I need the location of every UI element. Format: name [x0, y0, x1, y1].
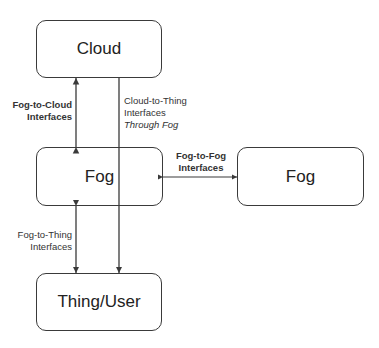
fog-to-thing-label-line1: Fog-to-Thing	[6, 229, 72, 241]
cloud-to-thing-label-line1: Cloud-to-Thing	[124, 95, 187, 107]
fog-to-thing-label: Fog-to-Thing Interfaces	[6, 229, 72, 253]
fog-node-right: Fog	[237, 147, 364, 206]
cloud-to-thing-label: Cloud-to-Thing Interfaces Through Fog	[124, 95, 187, 131]
fog-to-fog-label: Fog-to-Fog Interfaces	[165, 150, 237, 174]
fog-to-fog-label-line2: Interfaces	[165, 162, 237, 174]
fog-to-cloud-label-line2: Interfaces	[10, 111, 72, 123]
fog-to-thing-label-line2: Interfaces	[6, 241, 72, 253]
diagram-canvas: Cloud Fog Fog Thing/User Fog-to-Cloud In…	[0, 0, 379, 348]
fog-node-right-label: Fog	[286, 167, 315, 187]
fog-node-left: Fog	[36, 147, 163, 206]
cloud-to-thing-label-line2: Interfaces	[124, 107, 187, 119]
thing-user-node: Thing/User	[36, 273, 162, 331]
fog-to-fog-label-line1: Fog-to-Fog	[165, 150, 237, 162]
cloud-node: Cloud	[36, 20, 162, 78]
fog-to-cloud-label: Fog-to-Cloud Interfaces	[10, 99, 72, 123]
cloud-to-thing-label-line3: Through Fog	[124, 119, 187, 131]
fog-to-cloud-label-line1: Fog-to-Cloud	[10, 99, 72, 111]
thing-user-node-label: Thing/User	[57, 292, 140, 312]
cloud-node-label: Cloud	[77, 39, 121, 59]
fog-node-left-label: Fog	[85, 167, 114, 187]
